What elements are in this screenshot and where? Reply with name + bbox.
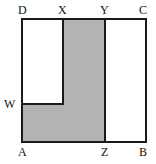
vertex-label-d: D [18,4,27,16]
vertex-label-z: Z [101,146,108,158]
unshaded-region-right [105,19,146,142]
vertex-label-w: W [4,98,15,110]
vertex-label-a: A [18,146,27,158]
vertex-label-x: X [58,4,67,16]
figure-canvas [0,0,156,164]
vertex-label-c: C [139,4,147,16]
unshaded-region-left [22,19,63,104]
geometry-figure: D X Y C W A Z B [0,0,156,164]
vertex-label-y: Y [100,4,109,16]
vertex-label-b: B [139,146,147,158]
